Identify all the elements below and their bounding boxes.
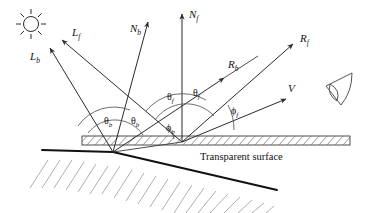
label-Lb: Lb: [29, 50, 40, 65]
ray-Lf: [62, 40, 182, 142]
eye-icon: [326, 73, 352, 105]
surface-caption: Transparent surface: [200, 151, 283, 162]
sun-icon: [16, 9, 46, 39]
label-V: V: [288, 82, 296, 94]
transparent-surface-slab: [78, 135, 360, 146]
ray-Lb: [50, 48, 113, 152]
optics-reflection-diagram: Lb Lf Nb Nf Rb Rf V θb: [0, 0, 379, 213]
figure-container: Lb Lf Nb Nf Rb Rf V θb: [0, 0, 379, 213]
label-Rb: Rb: [227, 58, 239, 73]
label-theta-b-1: θb: [104, 115, 113, 129]
label-Rf: Rf: [299, 32, 310, 47]
label-theta-f-1: θf: [167, 91, 175, 105]
label-theta-b-2: θb: [131, 115, 140, 129]
label-Nb: Nb: [129, 22, 141, 37]
label-phi-b: ϕb: [166, 122, 175, 136]
label-Lf: Lf: [71, 26, 81, 41]
vector-labels: Lb Lf Nb Nf Rb Rf V: [29, 8, 310, 94]
ground-hatching: [30, 160, 274, 213]
label-Nf: Nf: [188, 8, 199, 23]
